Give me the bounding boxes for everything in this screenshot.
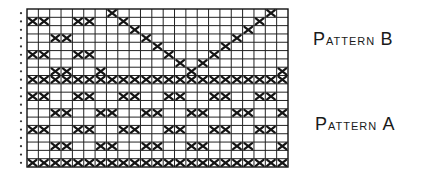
row-marker-dot	[20, 120, 22, 122]
x-stitch-mark	[86, 18, 94, 24]
x-stitch-mark	[86, 160, 94, 166]
x-stitch-mark	[278, 77, 286, 83]
x-stitch-mark	[40, 18, 48, 24]
x-stitch-mark	[108, 110, 116, 116]
row-marker-dot	[20, 95, 22, 97]
x-stitch-mark	[86, 93, 94, 99]
x-stitch-mark	[86, 52, 94, 58]
row-marker-dot	[20, 29, 22, 31]
x-stitch-mark	[188, 143, 196, 149]
x-stitch-mark	[154, 160, 162, 166]
pattern-a-label-letter: A	[382, 114, 395, 134]
x-stitch-mark	[256, 93, 264, 99]
x-stitch-mark	[29, 93, 37, 99]
x-stitch-mark	[244, 77, 252, 83]
x-stitch-mark	[63, 160, 71, 166]
x-stitch-mark	[74, 93, 82, 99]
x-stitch-mark	[63, 77, 71, 83]
x-stitch-mark	[278, 68, 286, 74]
x-stitch-mark	[74, 52, 82, 58]
x-stitch-mark	[244, 110, 252, 116]
x-stitch-mark	[188, 77, 196, 83]
x-stitch-mark	[52, 68, 60, 74]
row-marker-dot	[20, 62, 22, 64]
x-stitch-mark	[244, 27, 252, 33]
x-stitch-mark	[52, 35, 60, 41]
x-stitch-mark	[176, 127, 184, 133]
x-stitch-mark	[256, 77, 264, 83]
x-stitch-mark	[97, 110, 105, 116]
x-stitch-mark	[131, 27, 139, 33]
x-stitch-mark	[176, 77, 184, 83]
x-stitch-mark	[131, 93, 139, 99]
x-stitch-mark	[74, 127, 82, 133]
x-stitch-mark	[233, 110, 241, 116]
x-stitch-mark	[244, 160, 252, 166]
row-marker-dot	[20, 79, 22, 81]
x-stitch-mark	[86, 77, 94, 83]
x-stitch-mark	[52, 77, 60, 83]
x-stitch-mark	[256, 18, 264, 24]
x-stitch-mark	[63, 35, 71, 41]
x-stitch-mark	[199, 143, 207, 149]
x-stitch-mark	[29, 18, 37, 24]
row-markers	[20, 12, 22, 164]
x-stitch-mark	[176, 160, 184, 166]
x-stitch-mark	[165, 77, 173, 83]
x-stitch-mark	[40, 77, 48, 83]
x-stitch-mark	[40, 52, 48, 58]
x-stitch-mark	[142, 110, 150, 116]
x-stitch-mark	[165, 127, 173, 133]
x-stitch-mark	[267, 77, 275, 83]
x-stitch-mark	[131, 77, 139, 83]
x-stitch-mark	[188, 110, 196, 116]
x-stitch-mark	[267, 93, 275, 99]
x-stitch-mark	[278, 160, 286, 166]
x-stitch-mark	[210, 93, 218, 99]
x-stitch-mark	[142, 160, 150, 166]
x-stitch-mark	[29, 52, 37, 58]
x-stitch-mark	[74, 77, 82, 83]
x-stitch-mark	[74, 18, 82, 24]
pattern-b-label-word: ATTERN	[326, 35, 375, 47]
x-stitch-mark	[154, 143, 162, 149]
x-stitch-mark	[97, 77, 105, 83]
x-stitch-mark	[165, 52, 173, 58]
x-stitch-mark	[131, 127, 139, 133]
row-marker-dot	[20, 12, 22, 14]
x-stitch-mark	[40, 160, 48, 166]
x-stitch-mark	[108, 143, 116, 149]
x-stitch-mark	[97, 68, 105, 74]
pattern-a-label: PATTERN A	[315, 114, 395, 135]
row-marker-dot	[20, 112, 22, 114]
x-stitch-mark	[278, 143, 286, 149]
row-marker-dot	[20, 70, 22, 72]
x-stitch-mark	[63, 143, 71, 149]
grid-border	[27, 9, 288, 167]
x-stitch-mark	[176, 93, 184, 99]
x-stitch-mark	[165, 160, 173, 166]
x-stitch-mark	[29, 160, 37, 166]
x-stitch-mark	[120, 127, 128, 133]
x-stitch-mark	[97, 160, 105, 166]
x-stitch-mark	[222, 127, 230, 133]
x-stitch-mark	[222, 77, 230, 83]
x-stitch-mark	[210, 160, 218, 166]
x-stitch-mark	[63, 110, 71, 116]
grid-lines	[27, 9, 288, 167]
x-stitch-mark	[222, 160, 230, 166]
x-stitch-mark	[86, 127, 94, 133]
x-stitch-mark	[199, 60, 207, 66]
x-stitch-mark	[52, 160, 60, 166]
x-stitch-mark	[154, 77, 162, 83]
x-stitch-mark	[108, 77, 116, 83]
x-stitch-mark	[256, 160, 264, 166]
x-stitch-mark	[142, 77, 150, 83]
pattern-a-label-initial: P	[315, 114, 328, 134]
x-stitch-mark	[40, 93, 48, 99]
x-stitch-mark	[233, 143, 241, 149]
x-stitch-mark	[120, 160, 128, 166]
x-stitch-mark	[233, 160, 241, 166]
x-stitch-mark	[222, 43, 230, 49]
x-stitch-mark	[188, 68, 196, 74]
